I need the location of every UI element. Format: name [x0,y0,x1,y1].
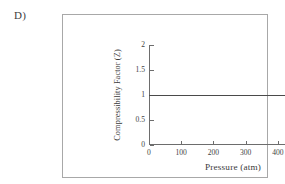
x-tick: 0 [149,144,150,145]
x-tick: 100 [181,144,182,145]
x-tick: 200 [213,144,214,145]
y-tick-label: 0.5 [136,115,146,125]
y-tick-label: 1 [141,90,145,100]
x-tick-mark [278,141,279,144]
y-tick-mark [150,45,154,46]
x-axis-spine [149,144,285,145]
y-axis-title: Compressibility Factor (Z) [113,35,127,155]
y-tick: 2 [149,45,155,46]
y-tick: 1.5 [149,70,155,71]
y-tick-mark [150,145,154,146]
x-tick-mark [181,141,182,144]
series-line-ideal-gas [149,95,285,96]
x-tick-label: 400 [272,148,283,158]
x-tick-mark [213,141,214,144]
y-tick: 0 [149,145,155,146]
x-axis-title: Pressure (atm) [149,162,285,172]
x-tick-label: 100 [176,148,187,158]
y-tick-label: 1.5 [136,65,146,75]
x-tick: 400 [278,144,279,145]
x-tick-label: 0 [147,148,151,158]
x-tick-label: 300 [240,148,251,158]
x-tick: 300 [246,144,247,145]
panel-label: D) [14,9,26,21]
y-tick-label: 2 [141,40,145,50]
y-tick-mark [150,70,154,71]
y-tick: 0.5 [149,120,155,121]
x-tick-mark [246,141,247,144]
y-tick-label: 0 [141,140,145,150]
plot-area: 00.511.52 0100200300400500 [149,45,285,145]
figure-frame: Compressibility Factor (Z) Pressure (atm… [62,14,268,178]
y-tick-mark [150,120,154,121]
x-tick-label: 200 [208,148,219,158]
